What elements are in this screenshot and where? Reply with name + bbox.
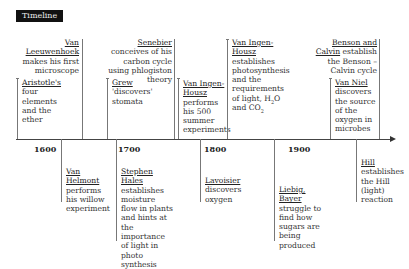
event-connector	[200, 139, 201, 202]
timeline-axis	[16, 139, 392, 140]
year-label-1600: 1600	[34, 144, 56, 154]
event-description: discovers oxygen	[205, 185, 241, 203]
event-hill: Hill establishes the Hill (light) reacti…	[361, 158, 405, 204]
event-name: Senebier	[138, 38, 173, 47]
event-description: performs his willow experiment	[66, 186, 110, 214]
event-connector	[178, 78, 179, 139]
event-description: 'discovers' stomata	[112, 87, 153, 105]
year-label-1800: 1800	[204, 144, 226, 154]
event-connector	[107, 78, 108, 139]
event-description: establishes the Hill (light) reaction	[361, 167, 404, 204]
event-description: four elements and the ether	[22, 87, 57, 124]
event-connector	[17, 78, 18, 139]
timeline-header: Timeline	[16, 10, 63, 22]
arrow-right-icon	[390, 136, 396, 142]
event-lavoisier: Lavoisier discovers oxygen	[205, 176, 245, 204]
event-connector	[356, 139, 357, 202]
event-van-leeuwenhoek: Van Leeuwenhoek makes his first microsco…	[14, 38, 79, 75]
event-description: discovers the source of the oxygen in mi…	[335, 87, 376, 133]
event-van-ingen-housz-photosynthesis: Van Ingen-Housz establishes photosynthes…	[232, 38, 292, 112]
event-description: struggle to find how sugars are being pr…	[279, 204, 321, 250]
event-connector	[174, 39, 175, 139]
event-name: Hill	[361, 158, 375, 167]
event-name: Grew	[112, 78, 133, 87]
event-description: makes his first microscope	[23, 57, 79, 75]
event-connector	[227, 39, 228, 139]
event-liebig-bayer: Liebig, Bayer struggle to find how sugar…	[279, 185, 325, 250]
event-connector	[61, 139, 62, 202]
event-name: Van Ingen-Housz	[232, 38, 273, 56]
year-label-1900: 1900	[288, 144, 310, 154]
year-label-1700: 1700	[118, 144, 140, 154]
event-grew: Grew 'discovers' stomata	[112, 78, 162, 106]
event-van-ingen-housz-experiments: Van Ingen-Housz performs his 500 summer …	[183, 79, 226, 135]
event-description: establishes moisture flow in plants and …	[121, 186, 173, 269]
event-van-niel: Van Niel discovers the source of the oxy…	[335, 78, 381, 134]
event-name: Aristotle's	[22, 78, 61, 87]
event-description: establishes photosynthesis and the requi…	[232, 57, 290, 103]
event-connector	[330, 78, 331, 139]
event-van-helmont: Van Helmont performs his willow experime…	[66, 167, 114, 213]
event-benson-calvin: Benson and Calvin establish the Benson –…	[306, 38, 377, 75]
event-name: Van Niel	[335, 78, 368, 87]
event-name: Van Leeuwenhoek	[26, 38, 79, 56]
subscript: 2	[261, 108, 264, 114]
event-name: Liebig, Bayer	[279, 185, 306, 203]
event-connector	[274, 139, 275, 241]
event-connector	[116, 139, 117, 241]
event-name: Van Helmont	[66, 167, 99, 185]
event-connector	[82, 39, 83, 139]
event-stephen-hales: Stephen Hales establishes moisture flow …	[121, 167, 173, 269]
event-name: Lavoisier	[205, 176, 240, 185]
event-name: Van Ingen-Housz	[183, 79, 224, 97]
event-name: Stephen Hales	[121, 167, 153, 185]
event-description: performs his 500 summer experiments	[183, 98, 231, 135]
event-aristotle: Aristotle's four elements and the ether	[22, 78, 62, 124]
